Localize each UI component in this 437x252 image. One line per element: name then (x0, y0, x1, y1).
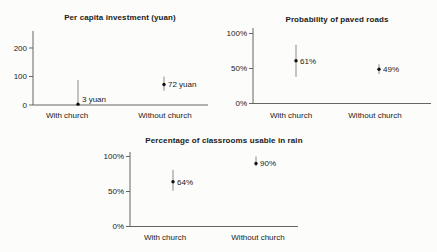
y-tick-label: 100 (14, 72, 28, 81)
data-point-with-church (171, 180, 174, 183)
y-tick-label: 0% (112, 222, 124, 231)
data-point-with-church (294, 59, 297, 62)
charts-svg: 01002003 yuan72 yuanWith churchWithout c… (0, 0, 437, 252)
figure-canvas: Per capita investment (yuan) Probability… (0, 0, 437, 252)
category-label-with-church: With church (144, 233, 186, 242)
data-point-without-church (162, 83, 165, 86)
data-point-without-church (377, 68, 380, 71)
y-tick-label: 0% (235, 99, 247, 108)
chart-per-capita-investment: 01002003 yuan72 yuanWith churchWithout c… (14, 31, 208, 120)
category-label-with-church: With church (46, 111, 88, 120)
point-label-with-church: 64% (177, 178, 193, 187)
category-label-without-church: Without church (138, 111, 191, 120)
y-tick-label: 100% (227, 29, 247, 38)
chart-classrooms-usable-in-rain: 0%50%100%64%90%With churchWithout church (104, 152, 298, 242)
point-label-with-church: 61% (300, 57, 316, 66)
point-label-with-church: 3 yuan (82, 95, 106, 104)
data-point-with-church (76, 102, 79, 105)
chart-probability-of-paved-roads: 0%50%100%61%49%With churchWithout church (227, 28, 431, 120)
category-label-without-church: Without church (348, 111, 401, 120)
point-label-without-church: 49% (383, 65, 399, 74)
y-tick-label: 0 (23, 101, 28, 110)
point-label-without-church: 90% (260, 159, 276, 168)
data-point-without-church (254, 162, 257, 165)
y-tick-label: 50% (231, 64, 247, 73)
category-label-with-church: With church (270, 111, 312, 120)
point-label-without-church: 72 yuan (168, 80, 196, 89)
category-label-without-church: Without church (231, 233, 284, 242)
y-tick-label: 50% (108, 187, 124, 196)
y-tick-label: 100% (104, 152, 124, 161)
y-tick-label: 200 (14, 44, 28, 53)
